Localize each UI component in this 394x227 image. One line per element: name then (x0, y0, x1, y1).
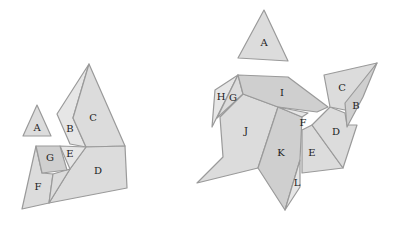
left-figure: A B C D E F G (22, 64, 127, 209)
left-label-d: D (94, 165, 102, 176)
left-label-a: A (32, 122, 41, 133)
right-label-l: L (294, 177, 301, 188)
right-label-i: I (280, 87, 284, 98)
left-label-b: B (66, 123, 73, 134)
right-label-a: A (259, 37, 268, 48)
right-piece-a (238, 10, 288, 61)
right-label-g: G (229, 92, 237, 103)
right-figure: A B C D E F G H I J K L (197, 10, 377, 210)
right-label-f: F (300, 117, 307, 128)
diagram-canvas: A B C D E F G A B C D E F G H I J K L (0, 0, 394, 227)
left-label-c: C (89, 112, 97, 123)
left-label-e: E (66, 148, 73, 159)
right-label-b: B (352, 100, 359, 111)
right-label-c: C (338, 82, 346, 93)
left-label-g: G (46, 152, 54, 163)
right-label-k: K (277, 147, 285, 158)
left-label-f: F (35, 181, 42, 192)
right-label-h: H (217, 91, 226, 102)
right-label-d: D (332, 126, 340, 137)
right-label-e: E (308, 147, 315, 158)
right-label-j: J (243, 125, 248, 136)
